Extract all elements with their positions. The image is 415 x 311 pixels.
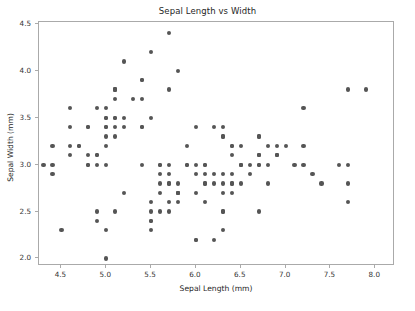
x-tick-label: 7.0 <box>265 270 305 279</box>
y-tick-label: 4.0 <box>0 66 31 75</box>
scatter-point <box>275 144 279 148</box>
y-tick-mark <box>35 211 38 212</box>
scatter-point <box>149 200 153 204</box>
scatter-point <box>284 144 288 148</box>
y-tick-mark <box>35 257 38 258</box>
scatter-point <box>50 144 54 148</box>
scatter-point <box>257 134 261 138</box>
scatter-point <box>50 172 54 176</box>
scatter-point <box>337 163 341 167</box>
scatter-point <box>185 144 189 148</box>
scatter-point <box>167 87 171 91</box>
scatter-point <box>140 97 144 101</box>
scatter-point <box>221 134 225 138</box>
scatter-point <box>194 163 198 167</box>
scatter-point <box>221 125 225 129</box>
scatter-point <box>292 163 296 167</box>
scatter-point <box>59 228 63 232</box>
scatter-point <box>346 181 350 185</box>
scatter-point <box>257 163 261 167</box>
y-tick-label: 4.5 <box>0 19 31 28</box>
scatter-point <box>104 116 108 120</box>
scatter-point <box>131 97 135 101</box>
scatter-point <box>68 106 72 110</box>
scatter-point <box>257 209 261 213</box>
scatter-point <box>212 181 216 185</box>
scatter-point <box>266 181 270 185</box>
x-tick-label: 4.5 <box>40 270 80 279</box>
scatter-point <box>158 209 162 213</box>
scatter-point <box>77 144 81 148</box>
scatter-point <box>149 209 153 213</box>
scatter-point <box>203 200 207 204</box>
x-tick-mark <box>195 265 196 268</box>
scatter-point <box>167 209 171 213</box>
scatter-point <box>149 228 153 232</box>
scatter-point <box>95 163 99 167</box>
scatter-point <box>86 125 90 129</box>
scatter-point <box>266 144 270 148</box>
scatter-point <box>221 191 225 195</box>
scatter-point <box>221 209 225 213</box>
scatter-point <box>230 153 234 157</box>
scatter-point <box>104 144 108 148</box>
scatter-point <box>167 172 171 176</box>
scatter-point <box>140 125 144 129</box>
scatter-point <box>95 209 99 213</box>
scatter-point <box>122 59 126 63</box>
scatter-point <box>203 172 207 176</box>
scatter-point <box>149 50 153 54</box>
scatter-point <box>122 125 126 129</box>
scatter-point <box>113 116 117 120</box>
scatter-point <box>275 153 279 157</box>
scatter-point <box>230 181 234 185</box>
scatter-point <box>203 181 207 185</box>
scatter-point <box>364 87 368 91</box>
y-tick-mark <box>35 23 38 24</box>
y-tick-label: 3.5 <box>0 113 31 122</box>
y-tick-label: 2.5 <box>0 207 31 216</box>
scatter-point <box>104 125 108 129</box>
scatter-point <box>149 219 153 223</box>
scatter-point <box>310 172 314 176</box>
x-tick-label: 5.0 <box>85 270 125 279</box>
scatter-point <box>248 163 252 167</box>
scatter-point <box>221 181 225 185</box>
scatter-point <box>113 209 117 213</box>
scatter-point <box>230 172 234 176</box>
scatter-point <box>266 163 270 167</box>
y-tick-mark <box>35 164 38 165</box>
scatter-point <box>113 125 117 129</box>
scatter-point <box>248 172 252 176</box>
scatter-point <box>194 172 198 176</box>
scatter-point <box>104 163 108 167</box>
scatter-point <box>86 153 90 157</box>
scatter-point <box>301 144 305 148</box>
x-tick-label: 6.5 <box>220 270 260 279</box>
scatter-point <box>239 181 243 185</box>
scatter-point <box>257 153 261 157</box>
scatter-point <box>95 106 99 110</box>
scatter-point <box>212 172 216 176</box>
plot-area <box>38 21 394 265</box>
x-tick-label: 6.0 <box>175 270 215 279</box>
scatter-point <box>167 200 171 204</box>
scatter-point <box>176 69 180 73</box>
x-tick-mark <box>105 265 106 268</box>
scatter-point <box>194 238 198 242</box>
y-axis-label: Sepal Width (mm) <box>6 88 15 208</box>
x-tick-mark <box>285 265 286 268</box>
scatter-point <box>301 106 305 110</box>
scatter-point <box>167 163 171 167</box>
scatter-point <box>95 219 99 223</box>
scatter-point <box>230 144 234 148</box>
scatter-point <box>113 87 117 91</box>
scatter-chart-figure: Sepal Length vs Width 4.55.05.56.06.57.0… <box>0 0 415 311</box>
x-tick-mark <box>374 265 375 268</box>
scatter-point <box>122 116 126 120</box>
scatter-point <box>86 163 90 167</box>
x-tick-mark <box>150 265 151 268</box>
x-tick-mark <box>60 265 61 268</box>
scatter-point <box>41 163 45 167</box>
scatter-point <box>158 172 162 176</box>
